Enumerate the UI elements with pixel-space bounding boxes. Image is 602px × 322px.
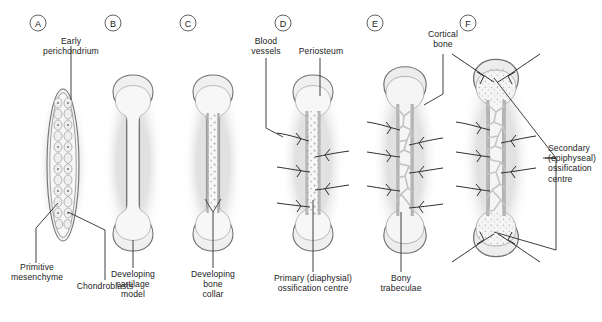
leader-blood-vessels [266,58,283,137]
panel-letter-d-text: D [280,19,287,29]
panel-letter-b: B [105,15,121,31]
bone-collar-d [305,111,321,215]
panel-letter-b-text: B [110,19,116,29]
label-developing-bone-collar: Developing bone collar [184,269,242,300]
panel-letter-e: E [367,15,383,31]
panel-letter-c-text: C [185,19,192,29]
panel-a-drawing [37,79,89,251]
panel-letters: A B C D E F [30,15,476,31]
bone-collar-c [206,113,220,213]
figure-endochondral-ossification: A B C D E F Early perich [0,0,602,322]
panel-letter-a-text: A [35,19,41,29]
panel-letter-f-text: F [465,19,471,29]
label-cortical-bone: Cortical bone [417,29,469,49]
label-bony-trabeculae: Bony trabeculae [373,273,429,293]
label-primary-ossification-centre: Primary (diaphysial) ossification centre [253,273,373,293]
panel-letter-e-text: E [372,19,378,29]
panel-f-drawing [452,50,540,266]
label-early-perichondrium: Early perichondrium [33,36,109,56]
panel-letter-c: C [180,15,196,31]
panel-e-drawing [367,58,443,262]
label-blood-vessels: Blood vessels [240,36,292,56]
label-secondary-ossification-centre: Secondary (epiphyseal) ossification cent… [548,143,602,184]
label-primitive-mesenchyme: Primitive mesenchyme [4,262,70,282]
panel-b-drawing [103,67,163,259]
label-developing-cartilage-model: Developing cartilage model [104,269,162,300]
panel-letter-d: D [275,15,291,31]
label-periosteum: Periosteum [293,46,349,56]
panel-letter-a: A [30,15,46,31]
